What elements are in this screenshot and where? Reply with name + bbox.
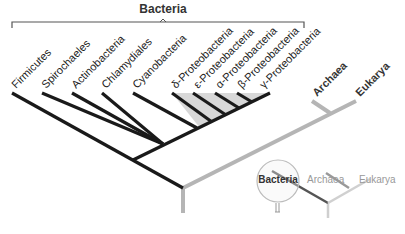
taxa-labels: Firmicutes Spirochaeles Actinobacteria C… bbox=[9, 24, 392, 99]
bacteria-bracket bbox=[12, 19, 304, 28]
inset-label-archaea: Archaea bbox=[307, 174, 345, 185]
inset-label-bacteria: Bacteria bbox=[258, 174, 298, 185]
phylogenetic-tree-figure: Bacteria Firmicutes Spirochaeles Actinob… bbox=[0, 0, 405, 234]
domain-label-eukarya: Eukarya bbox=[353, 59, 392, 98]
inset-label-eukarya: Eukarya bbox=[359, 174, 396, 185]
domain-label-archaea: Archaea bbox=[310, 59, 350, 99]
bacteria-header: Bacteria bbox=[139, 2, 187, 16]
magnifier-icon bbox=[257, 160, 299, 212]
